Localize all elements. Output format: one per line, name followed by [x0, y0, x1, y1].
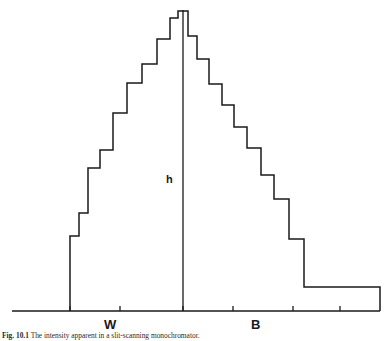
region-label-w: W	[104, 318, 117, 331]
figure-container: h W B Fig. 10.1 The intensity apparent i…	[0, 0, 391, 341]
figure-caption-number: Fig. 10.1	[2, 331, 29, 340]
region-label-b: B	[251, 318, 261, 331]
step-histogram-plot	[0, 0, 391, 341]
height-label-h: h	[166, 174, 173, 185]
figure-caption-text: The intensity apparent in a slit-scannin…	[31, 331, 200, 340]
figure-caption: Fig. 10.1 The intensity apparent in a sl…	[2, 331, 391, 341]
histogram-step-outline	[70, 11, 380, 311]
